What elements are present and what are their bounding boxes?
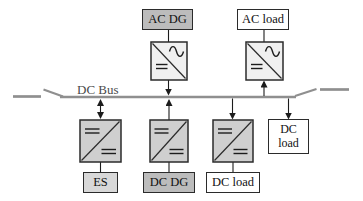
dc-load-right-box: DC load: [268, 119, 309, 154]
ac-dg-label: AC DG: [148, 13, 187, 27]
dc-load-right-label-line1: DC: [280, 123, 297, 136]
dc-microgrid-diagram: DC Bus A: [0, 0, 363, 201]
dc-dc-converter-icon-dcdg: [149, 119, 189, 163]
es-label: ES: [93, 176, 108, 190]
dc-dg-label: DC DG: [150, 176, 189, 190]
dc-bus-label: DC Bus: [77, 82, 119, 98]
wiring-layer: [0, 0, 363, 201]
ac-load-label: AC load: [242, 13, 284, 27]
ac-dc-converter-icon-acdg: [150, 41, 188, 81]
dc-dc-converter-icon-dcload: [212, 119, 254, 163]
dc-dc-converter-icon-es: [79, 119, 122, 163]
ac-dc-converter-icon-acload: [245, 41, 284, 81]
dc-load-right-label-line2: load: [278, 137, 299, 150]
dc-bus-left-switch-blade-icon: [44, 90, 64, 97]
dc-dg-box: DC DG: [143, 172, 195, 193]
ac-dg-box: AC DG: [142, 9, 193, 30]
dc-load-bottom-label: DC load: [212, 176, 254, 190]
es-box: ES: [83, 172, 118, 193]
dc-load-bottom-box: DC load: [206, 172, 260, 193]
ac-load-box: AC load: [237, 9, 289, 30]
dc-bus-right-switch-blade-icon: [295, 89, 317, 96]
